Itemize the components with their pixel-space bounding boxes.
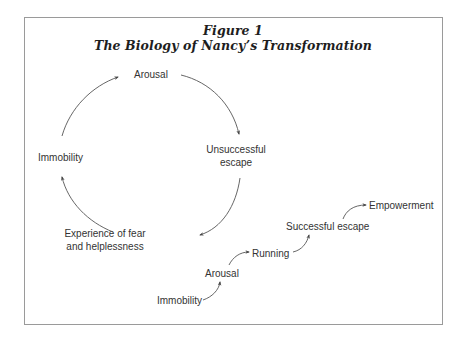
step-immobility: Immobility: [157, 294, 202, 307]
cycle-node-arousal: Arousal: [134, 68, 168, 81]
figure-number: Figure 1: [0, 23, 466, 38]
figure-title: The Biology of Nancy’s Transformation: [0, 38, 466, 53]
cycle-node-unsuccessful-escape-line1: Unsuccessful: [200, 143, 272, 156]
cycle-node-experience-fear-line2: and helplessness: [55, 240, 155, 253]
cycle-node-unsuccessful-escape-line2: escape: [200, 156, 272, 169]
step-successful-escape: Successful escape: [286, 220, 369, 233]
cycle-node-unsuccessful-escape: Unsuccessful escape: [200, 143, 272, 169]
step-running: Running: [252, 247, 289, 260]
step-arousal: Arousal: [205, 267, 239, 280]
cycle-node-experience-fear: Experience of fear and helplessness: [55, 227, 155, 253]
cycle-node-experience-fear-line1: Experience of fear: [55, 227, 155, 240]
step-empowerment: Empowerment: [369, 199, 433, 212]
cycle-node-immobility: Immobility: [38, 151, 83, 164]
